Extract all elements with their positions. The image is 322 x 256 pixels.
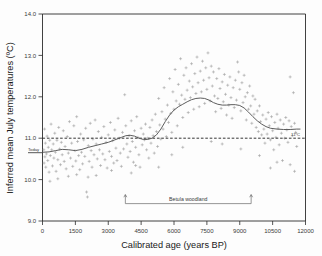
y-tick-label: 14.0 [24,11,36,17]
x-tick-label: 4500 [134,228,148,234]
reference-line-label: 11ºC [291,132,300,137]
y-tick-label: 11.0 [25,135,37,141]
x-tick-label: 9000 [233,228,247,234]
y-tick-label: 10.0 [24,177,36,183]
x-tick-label: 12000 [297,228,314,234]
x-tick-label: 6000 [167,228,181,234]
x-tick-label: 10500 [264,228,281,234]
annotation-label: Betula woodland [169,196,207,202]
y-axis-title: Inferred mean July temperatures (ºC) [5,42,15,193]
chart-canvas: 9.010.011.012.013.014.0 0150030004500600… [0,0,322,256]
y-tick-label: 12.0 [24,94,36,100]
x-axis-title: Calibrated age (years BP) [121,240,227,250]
y-tick-label: 13.0 [24,53,36,59]
x-tick-label: 7500 [200,228,214,234]
y-tick-label: 9.0 [28,218,37,224]
today-marker-label: Today [28,147,40,152]
x-tick-label: 3000 [102,228,116,234]
x-tick-label: 1500 [69,228,83,234]
chart-figure: 9.010.011.012.013.014.0 0150030004500600… [0,0,322,256]
